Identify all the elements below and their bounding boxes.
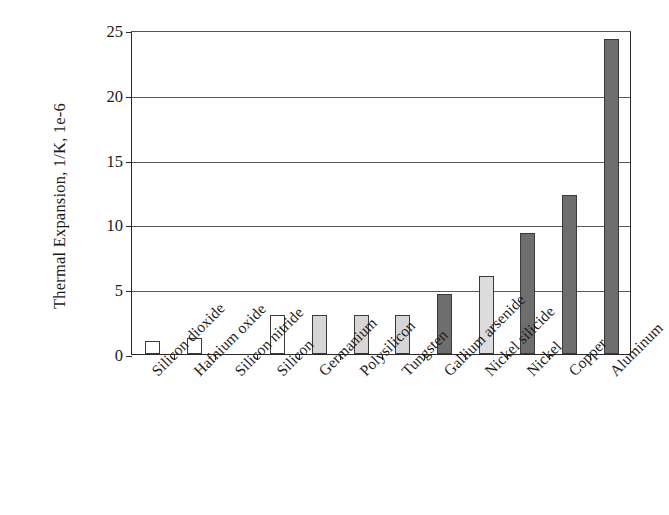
y-tick-label: 5 bbox=[115, 281, 123, 301]
y-tick-mark bbox=[126, 356, 132, 357]
y-axis-title: Thermal Expansion, 1/K, 1e-6 bbox=[50, 41, 70, 371]
bar bbox=[312, 315, 327, 354]
bar bbox=[145, 341, 160, 354]
x-tick-mark bbox=[549, 354, 550, 360]
x-tick-mark bbox=[340, 354, 341, 360]
y-tick-label: 10 bbox=[107, 216, 124, 236]
x-tick-mark bbox=[257, 354, 258, 360]
bar bbox=[187, 338, 202, 354]
x-tick-mark bbox=[465, 354, 466, 360]
plot-area: 0510152025 bbox=[131, 31, 631, 355]
thermal-expansion-bar-chart: Thermal Expansion, 1/K, 1e-6 0510152025 … bbox=[0, 0, 669, 515]
y-tick-label: 20 bbox=[107, 87, 124, 107]
bars-group bbox=[132, 32, 630, 354]
x-tick-mark bbox=[507, 354, 508, 360]
x-tick-mark bbox=[382, 354, 383, 360]
bar bbox=[520, 233, 535, 354]
x-tick-mark bbox=[215, 354, 216, 360]
y-tick-label: 15 bbox=[107, 152, 124, 172]
bar bbox=[270, 315, 285, 354]
x-tick-mark bbox=[590, 354, 591, 360]
x-tick-mark bbox=[424, 354, 425, 360]
bar bbox=[395, 315, 410, 354]
bar bbox=[604, 39, 619, 354]
x-tick-mark bbox=[299, 354, 300, 360]
bar bbox=[437, 294, 452, 354]
bar bbox=[479, 276, 494, 354]
y-tick-label: 25 bbox=[107, 22, 124, 42]
x-tick-mark bbox=[174, 354, 175, 360]
y-tick-label: 0 bbox=[115, 346, 123, 366]
bar bbox=[354, 315, 369, 354]
bar bbox=[562, 195, 577, 354]
